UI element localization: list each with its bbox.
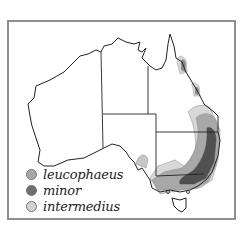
tasmania-outline [172, 198, 186, 212]
legend-label: intermedius [43, 199, 120, 214]
legend-label: leucophaeus [43, 167, 123, 182]
legend: leucophaeus minor intermedius [26, 166, 123, 214]
legend-item-minor: minor [26, 182, 123, 198]
legend-label: minor [43, 183, 81, 198]
legend-swatch-icon [26, 201, 37, 212]
legend-swatch-icon [26, 185, 37, 196]
legend-item-intermedius: intermedius [26, 198, 123, 214]
legend-swatch-icon [26, 169, 37, 180]
legend-item-leucophaeus: leucophaeus [26, 166, 123, 182]
